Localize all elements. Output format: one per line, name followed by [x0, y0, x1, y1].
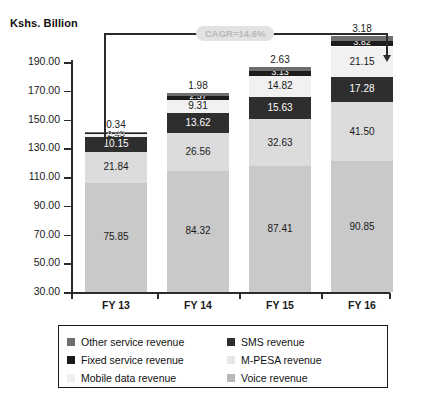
bar-segment-label: 32.63 — [267, 138, 292, 148]
legend-item[interactable]: Voice revenue — [227, 369, 322, 386]
legend-item[interactable]: Fixed service revenue — [67, 351, 184, 368]
y-tick-label: 30.00 — [4, 285, 60, 297]
bar-segment[interactable]: 0.63 — [85, 133, 147, 134]
legend-swatch — [227, 356, 235, 364]
legend-column-left: Other service revenueFixed service reven… — [67, 333, 184, 387]
bar-segment[interactable]: 17.28 — [331, 77, 393, 102]
bar-segment[interactable]: 14.82 — [249, 76, 311, 97]
bar-segment-label: 14.82 — [267, 81, 292, 91]
bar-segment-label: 90.85 — [349, 222, 374, 232]
legend-swatch — [67, 338, 75, 346]
legend-swatch — [227, 338, 235, 346]
legend-item[interactable]: Mobile data revenue — [67, 369, 184, 386]
bar-segment[interactable]: 75.85 — [85, 183, 147, 292]
y-tick-label: 70.00 — [4, 228, 60, 240]
legend-swatch — [67, 374, 75, 382]
legend-item[interactable]: Other service revenue — [67, 333, 184, 350]
y-tick-label: 190.00 — [4, 55, 60, 67]
bar-segment-label: 87.41 — [267, 224, 292, 234]
bar-segment[interactable]: 21.84 — [85, 152, 147, 183]
y-tick-label: 150.00 — [4, 113, 60, 125]
legend-label: Other service revenue — [81, 336, 184, 348]
y-tick-label: 170.00 — [4, 84, 60, 96]
legend-swatch — [227, 374, 235, 382]
bar-segment[interactable]: 15.63 — [249, 97, 311, 119]
y-tick — [64, 148, 72, 150]
bar-segment-label: 17.28 — [349, 84, 374, 94]
bar-segment[interactable]: 90.85 — [331, 161, 393, 292]
legend-label: SMS revenue — [241, 336, 305, 348]
bar-segment[interactable]: 87.41 — [249, 166, 311, 292]
bar-segment-label: 21.15 — [349, 57, 374, 67]
y-tick — [64, 177, 72, 179]
cagr-right-stem — [386, 33, 388, 55]
bar-segment[interactable] — [249, 67, 311, 71]
y-tick — [64, 263, 72, 265]
bar-segment[interactable]: 41.50 — [331, 102, 393, 162]
cagr-label: CAGR=14.6% — [196, 26, 274, 41]
bar-segment-label: 10.15 — [103, 139, 128, 149]
y-tick-label: 110.00 — [4, 170, 60, 182]
bar-total-label: 0.34 — [85, 119, 147, 130]
bar-segment[interactable]: 3.13 — [249, 71, 311, 75]
bar-segment-label: 84.32 — [185, 226, 210, 236]
bar-segment[interactable]: 10.15 — [85, 137, 147, 152]
legend-label: Mobile data revenue — [81, 372, 176, 384]
bar-segment[interactable]: 3.82 — [331, 41, 393, 46]
bar-total-label: 1.98 — [167, 80, 229, 91]
legend-label: M-PESA revenue — [241, 354, 322, 366]
y-tick — [64, 235, 72, 237]
bar-total-label: 2.63 — [249, 54, 311, 65]
y-tick — [64, 120, 72, 122]
legend-swatch — [67, 356, 75, 364]
bar-segment-label: 13.62 — [185, 118, 210, 128]
x-tick — [71, 293, 73, 299]
bar-segment[interactable] — [331, 36, 393, 41]
cagr-arrowhead — [383, 55, 391, 62]
legend-item[interactable]: SMS revenue — [227, 333, 322, 350]
y-tick-label: 130.00 — [4, 141, 60, 153]
bar-segment-label: 21.84 — [103, 162, 128, 172]
bar-segment[interactable]: 32.63 — [249, 119, 311, 166]
cagr-left-stem — [104, 33, 106, 143]
legend-label: Fixed service revenue — [81, 354, 184, 366]
bar-segment[interactable] — [167, 93, 229, 96]
y-tick-label: 50.00 — [4, 256, 60, 268]
y-tick-label: 90.00 — [4, 199, 60, 211]
bar-segment-label: 41.50 — [349, 127, 374, 137]
bar-segment[interactable]: 84.32 — [167, 171, 229, 292]
legend-item[interactable]: M-PESA revenue — [227, 351, 322, 368]
legend-label: Voice revenue — [241, 372, 308, 384]
bar-segment[interactable]: 26.56 — [167, 133, 229, 171]
chart-legend: Other service revenueFixed service reven… — [58, 325, 388, 388]
stacked-bar-chart: Kshs. Billion 30.0050.0070.0090.00110.00… — [0, 0, 446, 406]
bar-segment[interactable]: 2.57 — [167, 96, 229, 100]
bar-segment[interactable]: 9.31 — [167, 100, 229, 113]
bar-segment-label: 9.31 — [188, 101, 207, 111]
bar-segment-label: 15.63 — [267, 103, 292, 113]
legend-column-right: SMS revenueM-PESA revenueVoice revenue — [227, 333, 322, 387]
bar-segment-label: 26.56 — [185, 147, 210, 157]
y-tick — [64, 91, 72, 93]
y-tick — [64, 206, 72, 208]
bar-segment[interactable]: 13.62 — [167, 113, 229, 133]
y-tick — [64, 62, 72, 64]
bar-segment-label: 75.85 — [103, 232, 128, 242]
